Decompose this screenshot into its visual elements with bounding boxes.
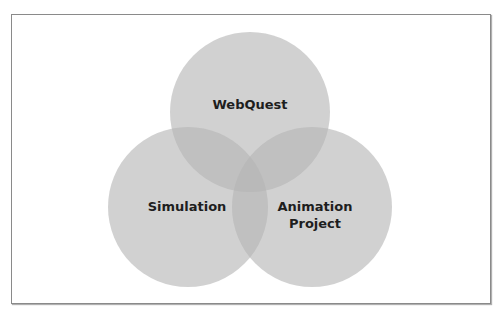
label-animation: Animation	[278, 199, 353, 214]
label-simulation: Simulation	[148, 199, 227, 214]
label-webquest: WebQuest	[212, 97, 287, 112]
label-project: Project	[289, 216, 341, 231]
venn-diagram: WebQuest Simulation Animation Project	[0, 0, 502, 310]
